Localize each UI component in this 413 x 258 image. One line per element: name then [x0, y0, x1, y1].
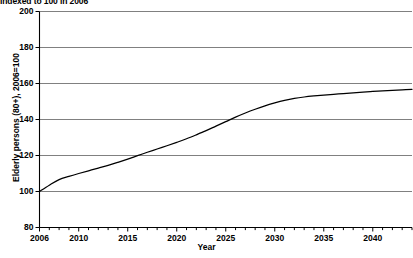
- y-tick-label: 100: [4, 186, 34, 196]
- y-tick-label: 180: [4, 42, 34, 52]
- x-tick-label: 2030: [255, 233, 295, 243]
- y-tick-label: 120: [4, 150, 34, 160]
- x-tick-label: 2015: [108, 233, 148, 243]
- y-tick-label: 200: [4, 6, 34, 16]
- x-axis-title: Year: [0, 242, 413, 252]
- x-tick-label: 2035: [304, 233, 344, 243]
- y-tick-label: 80: [4, 222, 34, 232]
- x-tick-label: 2025: [206, 233, 246, 243]
- gridlines-group: [40, 12, 413, 228]
- plot-area: [0, 0, 413, 258]
- x-tick-label: 2040: [353, 233, 393, 243]
- data-series-line: [40, 89, 413, 191]
- x-minor-ticks-group: [40, 228, 413, 232]
- x-tick-label: 2020: [157, 233, 197, 243]
- x-tick-label: 2010: [59, 233, 99, 243]
- y-tick-label: 140: [4, 114, 34, 124]
- y-major-ticks-group: [36, 12, 40, 228]
- y-tick-label: 160: [4, 78, 34, 88]
- chart-container: Indexed to 100 in 2006 Elderly persons (…: [0, 0, 413, 258]
- x-tick-label: 2006: [20, 233, 60, 243]
